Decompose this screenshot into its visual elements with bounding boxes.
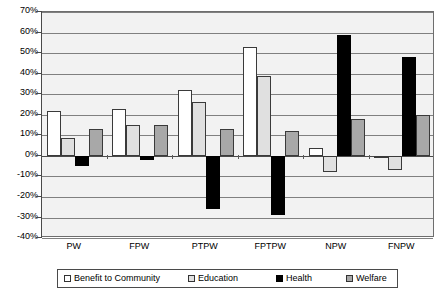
legend-swatch-icon <box>188 275 195 282</box>
bar <box>374 156 388 158</box>
y-axis-line <box>41 11 42 238</box>
bar <box>309 148 323 156</box>
x-tick-mark <box>172 155 173 159</box>
bar <box>206 156 220 209</box>
bar <box>323 156 337 172</box>
x-tick-label-pw: PW <box>41 241 107 252</box>
legend-item-benefit-to-community[interactable]: Benefit to Community <box>64 273 160 284</box>
y-axis: 70%60%50%40%30%20%10%0%-10%-20%-30%-40% <box>0 0 38 298</box>
y-tick-label: -10% <box>17 170 38 179</box>
legend-label: Health <box>286 273 312 284</box>
x-tick-label-ptpw: PTPW <box>172 241 238 252</box>
x-tick-label-fptpw: FPTPW <box>238 241 304 252</box>
legend-item-health[interactable]: Health <box>276 273 312 284</box>
bar <box>257 76 271 156</box>
bar <box>61 138 75 156</box>
bar <box>140 156 154 160</box>
y-tick-label: -20% <box>17 191 38 200</box>
bar <box>388 156 402 170</box>
bar <box>89 129 103 156</box>
bar <box>75 156 89 166</box>
x-tick-mark <box>107 155 108 159</box>
bar <box>402 57 416 156</box>
chart-legend: Benefit to CommunityEducationHealthWelfa… <box>57 269 398 288</box>
legend-swatch-icon <box>276 275 283 282</box>
bar <box>351 119 365 156</box>
x-tick-label-fnpw: FNPW <box>369 241 435 252</box>
bars-layer <box>42 12 433 236</box>
y-tick-label: -40% <box>17 232 38 241</box>
x-tick-mark <box>303 155 304 159</box>
bar <box>192 102 206 155</box>
bar <box>178 90 192 156</box>
x-tick-label-npw: NPW <box>303 241 369 252</box>
bar <box>220 129 234 156</box>
bar <box>126 125 140 156</box>
bar <box>243 47 257 156</box>
x-tick-mark <box>238 155 239 159</box>
legend-label: Education <box>198 273 238 284</box>
legend-item-welfare[interactable]: Welfare <box>346 273 387 284</box>
plot-area <box>41 11 434 237</box>
y-tick-label: -30% <box>17 212 38 221</box>
legend-item-education[interactable]: Education <box>188 273 238 284</box>
bar <box>337 35 351 156</box>
bar <box>112 109 126 156</box>
legend-swatch-icon <box>346 275 353 282</box>
gridline--40 <box>42 238 433 239</box>
x-tick-mark <box>369 155 370 159</box>
legend-label: Welfare <box>356 273 387 284</box>
x-tick-label-fpw: FPW <box>107 241 173 252</box>
bar <box>271 156 285 216</box>
bar-chart: 70%60%50%40%30%20%10%0%-10%-20%-30%-40% … <box>0 0 440 298</box>
bar <box>47 111 61 156</box>
bar <box>154 125 168 156</box>
bar <box>416 115 430 156</box>
legend-label: Benefit to Community <box>74 273 160 284</box>
legend-swatch-icon <box>64 275 71 282</box>
bar <box>285 131 299 156</box>
